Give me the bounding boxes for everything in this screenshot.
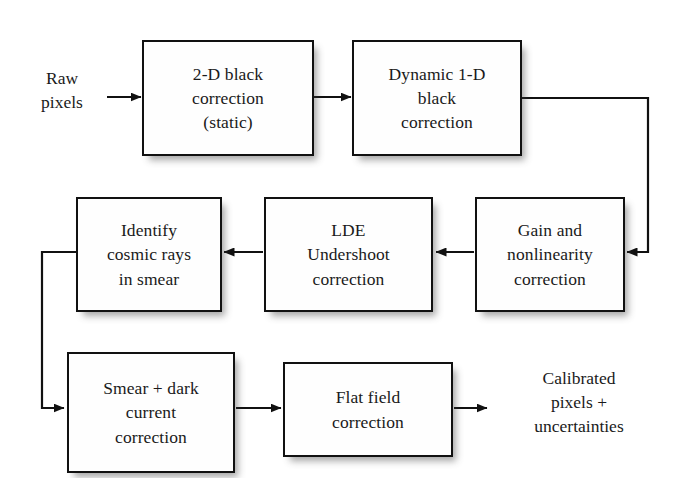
node-dynamic-1d-black-correction[interactable]: Dynamic 1-D black correction	[352, 40, 522, 156]
node-label-identify-cosmic-rays-in-smear: Identify cosmic rays in smear	[101, 218, 197, 290]
flowchart-canvas: Raw pixels 2-D black correction (static)…	[0, 0, 679, 478]
node-smear-and-dark-current-correction[interactable]: Smear + dark current correction	[67, 352, 235, 473]
node-label-flat-field-correction: Flat field correction	[326, 385, 410, 433]
node-flat-field-correction[interactable]: Flat field correction	[283, 362, 453, 457]
node-identify-cosmic-rays-in-smear[interactable]: Identify cosmic rays in smear	[76, 197, 222, 312]
node-lde-undershoot-correction[interactable]: LDE Undershoot correction	[264, 197, 433, 312]
input-label-raw-pixels: Raw pixels	[14, 66, 110, 114]
node-gain-and-nonlinearity-correction[interactable]: Gain and nonlinearity correction	[475, 197, 625, 312]
node-label-lde-undershoot-correction: LDE Undershoot correction	[301, 218, 396, 290]
node-label-dynamic-1d-black-correction: Dynamic 1-D black correction	[383, 62, 492, 134]
node-label-gain-and-nonlinearity-correction: Gain and nonlinearity correction	[501, 218, 599, 290]
output-label-calibrated-pixels: Calibrated pixels + uncertainties	[489, 366, 669, 438]
node-2d-black-correction[interactable]: 2-D black correction (static)	[142, 40, 314, 156]
node-label-2d-black-correction: 2-D black correction (static)	[186, 62, 270, 134]
node-label-smear-and-dark-current-correction: Smear + dark current correction	[97, 376, 205, 448]
